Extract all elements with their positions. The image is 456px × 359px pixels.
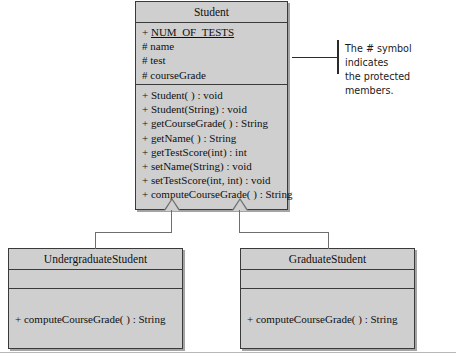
page-divider-rule — [0, 352, 456, 353]
method-row: + setName(String) : void — [140, 159, 287, 173]
attributes-compartment-undergraduate-student — [9, 270, 182, 289]
annotation-leader-line — [292, 57, 337, 58]
attributes-compartment-graduate-student — [241, 270, 414, 289]
class-box-undergraduate-student[interactable]: UndergraduateStudent + computeCourseGrad… — [8, 248, 183, 349]
method-row: + getName( ) : String — [140, 131, 287, 145]
method-row: + setTestScore(int, int) : void — [140, 173, 287, 187]
method-row: + Student( ) : void — [140, 88, 287, 102]
class-name-graduate-student: GraduateStudent — [241, 249, 414, 270]
annotation-protected-note: The # symbol indicates the protected mem… — [345, 42, 453, 98]
generalization-arrowhead-undergraduate — [165, 200, 179, 211]
generalization-line-undergraduate-v2 — [95, 232, 96, 249]
method-row: + getCourseGrade( ) : String — [140, 116, 287, 130]
attribute-row: # test — [140, 53, 287, 67]
attribute-name: name — [150, 40, 174, 52]
method-row: + getTestScore(int) : int — [140, 145, 287, 159]
class-name-student: Student — [136, 2, 287, 23]
class-box-student[interactable]: Student + NUM_OF_TESTS # name # test # c… — [135, 1, 288, 210]
attribute-visibility: # — [142, 54, 148, 66]
attribute-name: test — [150, 54, 165, 66]
generalization-line-graduate-h — [239, 232, 329, 233]
annotation-line-1: The # symbol indicates — [345, 42, 453, 70]
annotation-leader-bar — [337, 40, 339, 74]
attribute-row: # courseGrade — [140, 68, 287, 82]
uml-class-diagram-canvas: Student + NUM_OF_TESTS # name # test # c… — [0, 0, 456, 359]
generalization-line-graduate-v1 — [239, 210, 240, 232]
generalization-line-undergraduate-h — [95, 232, 172, 233]
methods-compartment-graduate-student: + computeCourseGrade( ) : String — [241, 289, 414, 349]
method-row: + computeCourseGrade( ) : String — [13, 312, 165, 326]
attribute-name: courseGrade — [150, 69, 206, 81]
generalization-arrowhead-graduate — [233, 200, 247, 211]
attribute-name: NUM_OF_TESTS — [151, 26, 234, 38]
attribute-row: # name — [140, 39, 287, 53]
attribute-visibility: # — [142, 69, 148, 81]
class-box-graduate-student[interactable]: GraduateStudent + computeCourseGrade( ) … — [240, 248, 415, 349]
attribute-visibility: # — [142, 40, 148, 52]
method-row: + Student(String) : void — [140, 102, 287, 116]
generalization-line-graduate-v2 — [328, 232, 329, 249]
methods-compartment-student: + Student( ) : void + Student(String) : … — [136, 85, 287, 209]
class-name-undergraduate-student: UndergraduateStudent — [9, 249, 182, 270]
attributes-compartment-student: + NUM_OF_TESTS # name # test # courseGra… — [136, 23, 287, 85]
attribute-row: + NUM_OF_TESTS — [140, 25, 287, 39]
method-row: + computeCourseGrade( ) : String — [245, 312, 397, 326]
generalization-line-undergraduate-v1 — [171, 210, 172, 232]
annotation-line-2: the protected members. — [345, 70, 453, 98]
method-row: + computeCourseGrade( ) : String — [140, 187, 287, 201]
methods-compartment-undergraduate-student: + computeCourseGrade( ) : String — [9, 289, 182, 349]
attribute-visibility: + — [142, 26, 148, 38]
